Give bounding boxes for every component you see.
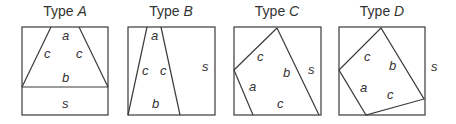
label-c-right: c — [160, 64, 167, 77]
label-b: b — [152, 97, 159, 110]
trapezoid-right-edge — [79, 27, 108, 87]
label-c-top: c — [257, 50, 264, 63]
label-a: a — [360, 81, 367, 94]
label-b: b — [283, 66, 290, 79]
label-s: s — [202, 60, 209, 73]
label-a: a — [151, 29, 158, 42]
label-s: s — [62, 97, 69, 110]
panel-d-figure — [339, 27, 425, 115]
label-c-left: c — [44, 47, 51, 60]
label-s: s — [431, 60, 438, 73]
label-c-left: c — [142, 64, 149, 77]
label-c-bottom: c — [387, 88, 394, 101]
label-b: b — [62, 71, 69, 84]
label-c-right: c — [76, 47, 83, 60]
edge-c-top — [234, 28, 277, 70]
label-a: a — [249, 80, 256, 93]
label-b: b — [389, 59, 396, 72]
label-c-bottom: c — [277, 97, 284, 110]
label-c-top: c — [364, 50, 371, 63]
label-s: s — [308, 63, 315, 76]
inner-quadrilateral — [339, 28, 424, 115]
label-a: a — [62, 29, 69, 42]
